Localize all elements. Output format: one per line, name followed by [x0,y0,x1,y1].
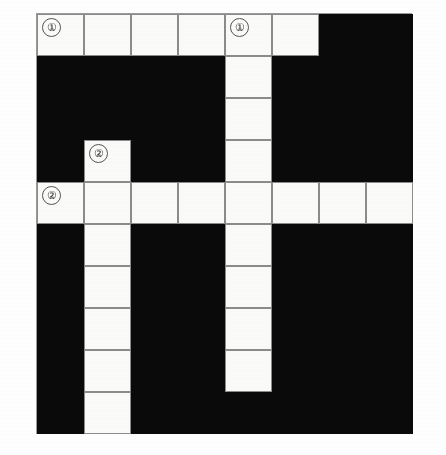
crossword-puzzle: ①①②② [0,0,446,455]
clue-number-2-down: ② [89,144,108,163]
grid-cell-open[interactable] [225,224,272,266]
grid-cell-blocked [131,224,178,266]
grid-cell-blocked [178,98,225,140]
grid-cell-open[interactable]: ② [84,140,131,182]
grid-cell-blocked [225,392,272,434]
grid-cell-blocked [131,98,178,140]
grid-cell-blocked [37,392,84,434]
grid-cell-blocked [319,224,366,266]
grid-cell-open[interactable] [319,182,366,224]
grid-cell-blocked [272,392,319,434]
grid-cell-blocked [272,350,319,392]
grid-cell-blocked [272,308,319,350]
grid-cell-open[interactable] [178,14,225,56]
grid-cell-blocked [37,98,84,140]
grid-cell-open[interactable] [84,308,131,350]
grid-cell-open[interactable] [84,14,131,56]
grid-cell-blocked [366,266,413,308]
grid-cell-open[interactable] [131,182,178,224]
grid-cell-open[interactable] [225,56,272,98]
grid-cell-blocked [366,308,413,350]
grid-cell-open[interactable] [84,182,131,224]
grid-cell-blocked [178,350,225,392]
grid-cell-blocked [319,266,366,308]
grid-cell-blocked [366,14,413,56]
grid-cell-open[interactable] [84,266,131,308]
grid-cell-blocked [319,350,366,392]
grid-cell-blocked [319,392,366,434]
grid-cell-blocked [366,350,413,392]
grid-cell-blocked [178,266,225,308]
grid-cell-blocked [37,266,84,308]
grid-cell-blocked [178,392,225,434]
grid-cell-blocked [272,224,319,266]
grid-cell-open[interactable]: ① [225,14,272,56]
grid-cell-open[interactable]: ② [37,182,84,224]
crossword-grid[interactable]: ①①②② [37,14,413,434]
grid-cell-blocked [319,14,366,56]
grid-cell-blocked [131,56,178,98]
grid-cell-blocked [366,140,413,182]
grid-cell-blocked [319,56,366,98]
grid-cell-blocked [178,140,225,182]
grid-cell-blocked [272,140,319,182]
grid-cell-blocked [319,140,366,182]
grid-cell-blocked [272,98,319,140]
grid-cell-blocked [84,56,131,98]
grid-cell-open[interactable] [84,350,131,392]
grid-cell-blocked [272,56,319,98]
grid-cell-blocked [37,140,84,182]
grid-cell-blocked [366,98,413,140]
grid-cell-open[interactable] [225,140,272,182]
clue-number-1-across: ① [42,18,61,37]
grid-cell-blocked [366,224,413,266]
grid-cell-blocked [366,392,413,434]
grid-cell-blocked [131,392,178,434]
grid-cell-blocked [272,266,319,308]
grid-cell-open[interactable] [84,224,131,266]
grid-cell-open[interactable] [225,182,272,224]
grid-cell-open[interactable] [225,308,272,350]
grid-cell-open[interactable] [225,98,272,140]
grid-cell-open[interactable] [366,182,413,224]
grid-cell-blocked [131,350,178,392]
grid-cell-blocked [178,308,225,350]
grid-cell-blocked [178,224,225,266]
grid-cell-blocked [37,308,84,350]
grid-cell-blocked [131,140,178,182]
grid-cell-blocked [366,56,413,98]
grid-cell-open[interactable] [225,350,272,392]
grid-cell-open[interactable] [225,266,272,308]
grid-cell-blocked [319,308,366,350]
grid-cell-open[interactable] [272,14,319,56]
grid-cell-open[interactable]: ① [37,14,84,56]
grid-cell-blocked [37,224,84,266]
grid-cell-open[interactable] [84,392,131,434]
grid-cell-open[interactable] [272,182,319,224]
grid-cell-blocked [319,98,366,140]
grid-cell-blocked [131,266,178,308]
grid-cell-blocked [37,350,84,392]
grid-cell-blocked [178,56,225,98]
grid-cell-open[interactable] [131,14,178,56]
grid-cell-blocked [131,308,178,350]
grid-cell-blocked [37,56,84,98]
grid-cell-blocked [84,98,131,140]
clue-number-2-across: ② [42,186,61,205]
clue-number-1-down: ① [230,18,249,37]
grid-cell-open[interactable] [178,182,225,224]
